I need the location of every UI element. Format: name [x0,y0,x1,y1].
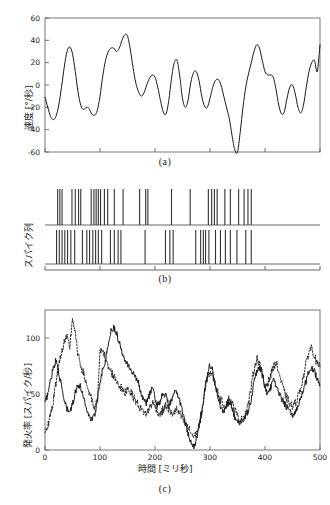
panel-a-y-tick-label: 60 [30,14,40,23]
panel-c-x-tick-label: 500 [313,453,328,462]
panel-c-x-tick-label: 100 [93,453,108,462]
panel-c-x-tick-label: 400 [258,453,273,462]
panel-a: 6040200-20-40-60 [28,14,320,157]
panel-a-y-tick-label: 40 [30,36,40,45]
figure-svg: 6040200-20-40-600501000100200300400500 [0,0,330,505]
spike-train-2 [45,230,320,264]
figure-container: 6040200-20-40-600501000100200300400500 速… [0,0,330,505]
panel-a-y-tick-label: 0 [35,81,40,90]
panel-c-y-tick-label: 0 [35,446,40,455]
panel-caption-b: (b) [0,273,330,284]
panel-c-x-tick-label: 300 [203,453,218,462]
panel-c-y-tick-label: 100 [26,334,41,343]
spike-train-1 [45,189,320,225]
panel-a-y-tick-label: 20 [30,58,40,67]
panel-a-plot-frame [45,18,320,152]
panel-c-x-tick-label: 200 [148,453,163,462]
panel-c-y-axis-label: 発火率 [スパイク/秒] [21,363,34,448]
panel-caption-c: (c) [0,483,330,494]
panel-b [45,189,320,270]
panel-a-y-axis-label: 速度 [°/秒] [22,86,35,130]
panel-b-y-axis-label: スパイク列 [22,223,35,268]
panel-caption-a: (a) [0,156,330,167]
panel-c-x-axis-label: 時間 [ミリ秒] [0,462,330,475]
panel-c: 0501000100200300400500 [26,310,328,462]
panel-c-x-tick-label: 0 [43,453,48,462]
